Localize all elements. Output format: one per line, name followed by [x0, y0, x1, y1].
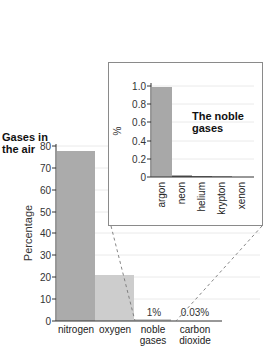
svg-text:nitrogen: nitrogen	[58, 324, 94, 335]
svg-text:helium: helium	[196, 182, 207, 211]
svg-text:0.6: 0.6	[132, 117, 146, 128]
inset-title: The noble	[192, 110, 244, 122]
bar-argon	[152, 87, 172, 177]
svg-text:0.2: 0.2	[132, 154, 146, 165]
inset-y-axis-label: %	[112, 126, 123, 135]
svg-text:neon: neon	[176, 182, 187, 204]
inset-title-2: gases	[192, 122, 223, 134]
svg-text:xenon: xenon	[236, 182, 247, 209]
svg-text:argon: argon	[156, 182, 167, 208]
svg-text:70: 70	[40, 163, 52, 174]
annotation-noble-gases: 1%	[147, 307, 162, 318]
earth-image	[0, 0, 200, 38]
bar-oxygen	[95, 275, 134, 321]
svg-text:0: 0	[45, 316, 51, 327]
svg-text:carbon: carbon	[180, 324, 211, 335]
svg-text:80: 80	[40, 141, 52, 152]
svg-text:noble: noble	[141, 324, 166, 335]
svg-text:0.8: 0.8	[132, 99, 146, 110]
svg-text:50: 50	[40, 207, 52, 218]
main-x-labels: nitrogen oxygen noble gases carbon dioxi…	[58, 324, 211, 346]
main-y-axis-label: Percentage	[22, 205, 34, 261]
annotation-carbon-dioxide: 0.03%	[181, 307, 209, 318]
main-chart-title-2: the air	[2, 143, 36, 155]
svg-text:0: 0	[140, 172, 146, 183]
bar-nitrogen	[57, 151, 95, 321]
svg-text:0.4: 0.4	[132, 136, 146, 147]
svg-text:1.0: 1.0	[132, 81, 146, 92]
main-y-ticks	[52, 146, 56, 321]
svg-text:oxygen: oxygen	[99, 324, 131, 335]
svg-text:10: 10	[40, 294, 52, 305]
svg-text:30: 30	[40, 250, 52, 261]
svg-text:dioxide: dioxide	[179, 335, 211, 346]
svg-text:krypton: krypton	[216, 182, 227, 215]
svg-text:20: 20	[40, 272, 52, 283]
inset-chart: 0 0.2 0.4 0.6 0.8 1.0 % The noble gases …	[109, 63, 263, 226]
main-y-tick-labels: 0 10 20 30 40 50 60 70 80	[40, 141, 52, 327]
svg-text:gases: gases	[140, 335, 167, 346]
svg-text:40: 40	[40, 228, 52, 239]
svg-text:60: 60	[40, 185, 52, 196]
gases-figure: Gases in the air	[0, 0, 276, 354]
